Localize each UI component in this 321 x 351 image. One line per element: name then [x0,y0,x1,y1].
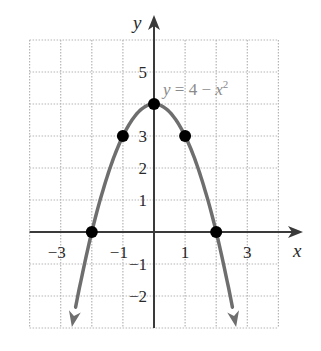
data-point [179,130,191,142]
y-axis-label: y [131,12,142,33]
y-tick-label: 1 [139,191,148,210]
curve-arrow-left-icon [69,310,81,327]
data-point [148,98,160,110]
y-tick-label: 2 [139,159,148,178]
data-point [210,226,222,238]
equation-label: y = 4 − x2 [161,78,228,99]
axes [30,15,303,328]
data-point [86,226,98,238]
y-tick-label: −2 [129,287,147,306]
x-tick-label: −1 [110,243,128,262]
x-tick-label: −3 [48,243,66,262]
parabola-chart: −3−1135321−1−2 y x y = 4 − x2 [0,0,321,351]
tick-labels: −3−1135321−1−2 [48,63,252,306]
y-tick-label: −1 [129,255,147,274]
y-tick-label: 3 [139,127,148,146]
x-axis-label: x [292,240,302,261]
data-point [117,130,129,142]
y-tick-label: 5 [139,63,148,82]
x-tick-label: 3 [243,243,252,262]
curve-arrow-right-icon [227,310,239,327]
x-tick-label: 1 [181,243,190,262]
